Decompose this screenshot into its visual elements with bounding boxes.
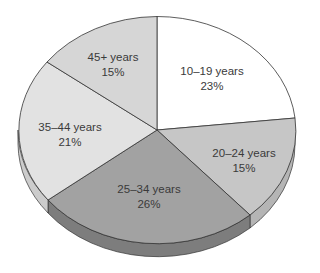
label-name: 35–44 years xyxy=(38,120,101,135)
label-20-24: 20–24 years 15% xyxy=(212,146,275,176)
label-25-34: 25–34 years 26% xyxy=(117,182,180,212)
label-pct: 15% xyxy=(212,161,275,176)
label-pct: 21% xyxy=(38,135,101,150)
label-pct: 26% xyxy=(117,197,180,212)
label-name: 45+ years xyxy=(88,50,139,65)
label-name: 25–34 years xyxy=(117,182,180,197)
label-pct: 15% xyxy=(88,65,139,80)
label-45-plus: 45+ years 15% xyxy=(88,50,139,80)
label-35-44: 35–44 years 21% xyxy=(38,120,101,150)
label-name: 20–24 years xyxy=(212,146,275,161)
label-name: 10–19 years xyxy=(180,64,243,79)
label-pct: 23% xyxy=(180,79,243,94)
label-10-19: 10–19 years 23% xyxy=(180,64,243,94)
